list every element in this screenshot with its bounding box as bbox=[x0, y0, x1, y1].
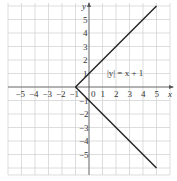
svg-text:5: 5 bbox=[83, 15, 88, 25]
svg-text:4: 4 bbox=[83, 28, 88, 38]
y-axis-label: y bbox=[81, 1, 86, 11]
svg-text:−5: −5 bbox=[16, 89, 26, 99]
svg-text:2: 2 bbox=[114, 89, 119, 99]
svg-text:4: 4 bbox=[141, 89, 146, 99]
x-axis-label: x bbox=[167, 89, 172, 99]
svg-text:−1: −1 bbox=[70, 89, 80, 99]
svg-text:3: 3 bbox=[83, 42, 88, 52]
svg-text:−4: −4 bbox=[79, 136, 89, 146]
svg-text:−3: −3 bbox=[79, 123, 89, 133]
svg-text:−4: −4 bbox=[29, 89, 39, 99]
y-axis-arrow-icon bbox=[87, 2, 91, 7]
equation-label: |y| = x + 1 bbox=[107, 68, 143, 78]
svg-text:−2: −2 bbox=[56, 89, 66, 99]
svg-text:−1: −1 bbox=[79, 96, 89, 106]
svg-text:1: 1 bbox=[101, 89, 106, 99]
svg-text:−5: −5 bbox=[79, 150, 89, 160]
svg-text:−3: −3 bbox=[43, 89, 53, 99]
graph: −5−4−3−2−11234554321−1−2−3−4−5 x y 0 |y|… bbox=[0, 0, 177, 181]
svg-text:3: 3 bbox=[128, 89, 133, 99]
svg-text:5: 5 bbox=[155, 89, 160, 99]
origin-label: 0 bbox=[91, 89, 96, 99]
svg-text:2: 2 bbox=[83, 55, 88, 65]
svg-text:−2: −2 bbox=[79, 109, 89, 119]
